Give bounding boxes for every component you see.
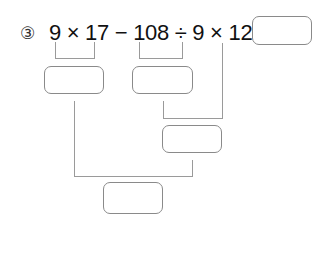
connector-step2 [163, 101, 164, 119]
step-4-box[interactable] [103, 182, 163, 214]
connector-final-horizontal [74, 176, 193, 177]
bracket-9x17 [55, 42, 95, 59]
step-3-box[interactable] [162, 125, 222, 153]
step-2-box[interactable] [132, 66, 193, 94]
step-1-box[interactable] [44, 66, 104, 94]
problem-number: ③ [20, 23, 35, 43]
connector-step3 [192, 160, 193, 177]
connector-12 [222, 43, 223, 119]
connector-step2-horizontal [163, 118, 223, 119]
final-answer-box[interactable] [252, 16, 312, 45]
bracket-108div9 [139, 42, 183, 59]
connector-step1 [74, 101, 75, 177]
